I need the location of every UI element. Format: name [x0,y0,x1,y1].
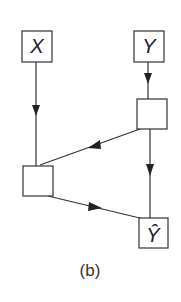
node-x-label: X [29,35,44,57]
node-x: X [22,31,52,62]
diagram-canvas: X Y Ŷ (b) [0,0,181,302]
edge-hidden-left-to-y-hat [48,196,144,219]
edge-hidden-right-to-hidden-left [40,129,140,165]
arrowhead-right-icon [88,202,102,211]
node-y-label: Y [142,35,157,57]
node-y-hat: Ŷ [139,218,168,248]
node-hidden-right [137,99,167,129]
arrowhead-down-icon [32,105,40,116]
arrowhead-down-icon [146,164,154,176]
node-y: Y [134,31,164,62]
arrowhead-left-icon [88,140,101,149]
edge-hidden-right-to-y-hat [146,129,154,218]
edge-x-to-hidden-left [32,62,40,166]
node-y-hat-label: Ŷ [146,224,161,246]
arrowhead-down-icon [144,73,152,84]
figure-caption: (b) [80,261,101,280]
edge-y-to-hidden-right [144,62,152,99]
node-hidden-left [23,166,53,196]
